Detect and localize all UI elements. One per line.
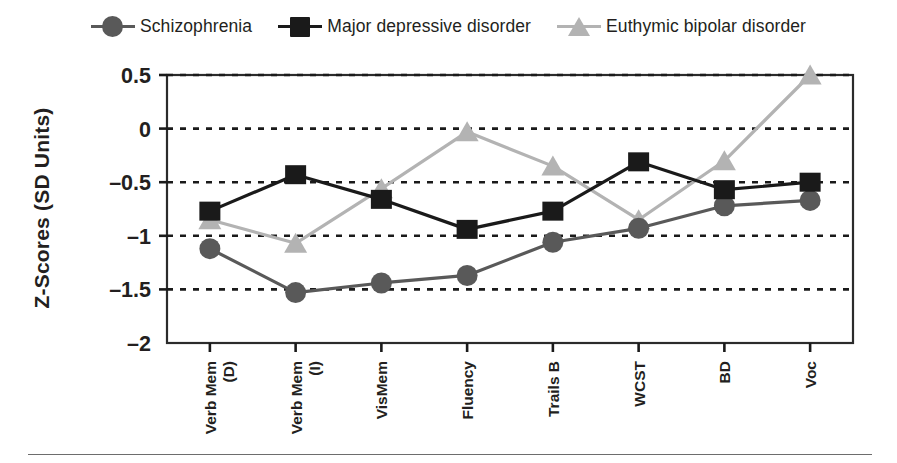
triangle-glyph-icon — [568, 17, 590, 36]
x-tick-label-group: Voc — [802, 361, 819, 389]
data-point-square — [542, 202, 563, 221]
square-glyph-icon — [290, 17, 310, 37]
data-point-circle — [628, 218, 649, 239]
data-point-square — [285, 165, 306, 184]
data-point-circle — [285, 282, 306, 303]
x-tick-label: Trails B — [545, 361, 562, 417]
x-tick-label: Verb Mem — [288, 361, 305, 434]
legend-marker-triangle-icon — [557, 15, 601, 37]
x-tick-label-group: Fluency — [459, 361, 476, 420]
series-triangle — [198, 65, 821, 253]
x-tick-label-group: Trails B — [545, 361, 562, 417]
data-point-circle — [199, 238, 220, 259]
chart-legend: SchizophreniaMajor depressive disorderEu… — [0, 8, 897, 44]
data-point-square — [800, 173, 821, 192]
y-tick-label: –0.5 — [109, 171, 151, 195]
x-tick-label-group: Verb Mem(D) — [202, 361, 237, 434]
x-tick-label-group: BD — [716, 361, 733, 383]
x-tick-label: WCST — [631, 360, 648, 406]
data-point-square — [457, 220, 478, 239]
x-tick-label-secondary: (D) — [220, 361, 237, 383]
circle-glyph-icon — [102, 16, 123, 37]
data-point-circle — [542, 232, 563, 253]
legend-item-square: Major depressive disorder — [278, 15, 531, 37]
y-tick-label: –1 — [127, 225, 151, 249]
data-point-square — [714, 180, 735, 199]
legend-item-label: Schizophrenia — [140, 16, 252, 37]
data-point-triangle — [541, 156, 564, 176]
legend-item-label: Major depressive disorder — [327, 16, 531, 37]
x-tick-label: Fluency — [459, 361, 476, 420]
legend-item-triangle: Euthymic bipolar disorder — [557, 15, 806, 37]
x-tick-label-group: Verb Mem(I) — [288, 361, 323, 434]
plot-border — [167, 75, 853, 343]
y-tick-label: 0 — [139, 118, 151, 142]
chart-container: Z-Scores (SD Units) 0.50–0.5–1–1.5–2Verb… — [0, 44, 897, 444]
data-point-circle — [800, 190, 821, 211]
legend-item-circle: Schizophrenia — [91, 15, 252, 37]
legend-marker-square-icon — [278, 15, 322, 37]
legend-item-label: Euthymic bipolar disorder — [606, 16, 806, 37]
y-tick-label: –2 — [127, 332, 151, 356]
x-tick-label-group: WCST — [631, 360, 648, 406]
x-tick-label-secondary: (I) — [306, 361, 323, 376]
y-tick-label: 0.5 — [121, 64, 151, 88]
footer-divider — [28, 454, 872, 455]
x-tick-label: BD — [716, 361, 733, 383]
data-point-square — [628, 152, 649, 171]
x-tick-label: Voc — [802, 361, 819, 389]
data-point-square — [199, 202, 220, 221]
plot-area: 0.50–0.5–1–1.5–2Verb Mem(D)Verb Mem(I)Vi… — [0, 44, 897, 444]
data-point-circle — [371, 272, 392, 293]
x-tick-label: Verb Mem — [202, 361, 219, 434]
data-point-circle — [457, 265, 478, 286]
x-tick-label-group: VisMem — [373, 361, 390, 419]
data-point-triangle — [456, 121, 479, 141]
x-tick-label: VisMem — [373, 361, 390, 419]
data-point-square — [371, 190, 392, 209]
legend-marker-circle-icon — [91, 15, 135, 37]
y-tick-label: –1.5 — [109, 278, 151, 302]
